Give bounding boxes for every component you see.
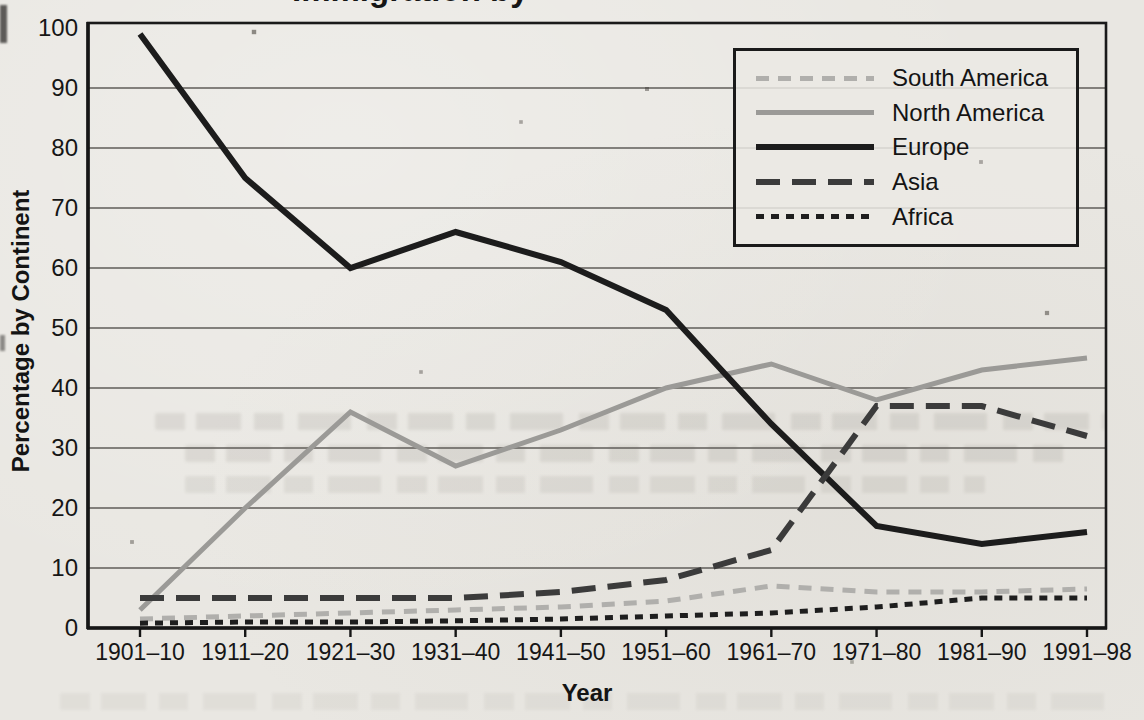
legend-label-asia: Asia (892, 168, 939, 196)
y-tick-label-100: 100 (18, 15, 78, 41)
x-tick-label-1951–60: 1951–60 (610, 640, 722, 664)
y-tick-label-10: 10 (18, 555, 78, 581)
chart-legend: South AmericaNorth AmericaEuropeAsiaAfri… (733, 48, 1079, 247)
y-tick-label-70: 70 (18, 195, 78, 221)
y-tick-label-90: 90 (18, 75, 78, 101)
x-tick-label-1921–30: 1921–30 (294, 640, 406, 664)
legend-swatch-asia (756, 179, 874, 185)
series-line-south-america (140, 586, 1087, 619)
legend-item-asia: Asia (756, 168, 1076, 196)
legend-item-europe: Europe (756, 133, 1076, 161)
y-tick-label-20: 20 (18, 495, 78, 521)
legend-swatch-europe (756, 144, 874, 150)
legend-label-south-america: South America (892, 64, 1048, 92)
legend-item-south-america: South America (756, 64, 1076, 92)
legend-swatch-south-america (756, 76, 874, 81)
scan-edge-artifact (0, 5, 7, 43)
x-tick-label-1991–98: 1991–98 (1031, 640, 1143, 664)
x-tick-label-1941–50: 1941–50 (505, 640, 617, 664)
y-tick-label-40: 40 (18, 375, 78, 401)
legend-item-north-america: North America (756, 99, 1076, 127)
legend-swatch-africa (756, 214, 874, 219)
y-tick-label-50: 50 (18, 315, 78, 341)
y-tick-label-60: 60 (18, 255, 78, 281)
x-tick-label-1931–40: 1931–40 (400, 640, 512, 664)
y-tick-label-30: 30 (18, 435, 78, 461)
y-tick-label-0: 0 (18, 615, 78, 641)
scan-edge-artifact (0, 335, 5, 351)
scan-specks (0, 0, 2, 2)
legend-label-north-america: North America (892, 99, 1044, 127)
x-axis-title: Year (532, 679, 642, 707)
legend-swatch-north-america (756, 110, 874, 115)
x-tick-label-1981–90: 1981–90 (926, 640, 1038, 664)
x-tick-label-1971–80: 1971–80 (821, 640, 933, 664)
series-line-asia (140, 406, 1087, 598)
y-tick-label-80: 80 (18, 135, 78, 161)
legend-label-europe: Europe (892, 133, 969, 161)
legend-item-africa: Africa (756, 203, 1076, 231)
x-tick-label-1961–70: 1961–70 (715, 640, 827, 664)
legend-label-africa: Africa (892, 203, 953, 231)
x-tick-label-1911–20: 1911–20 (189, 640, 301, 664)
x-tick-label-1901–10: 1901–10 (84, 640, 196, 664)
series-line-north-america (140, 358, 1087, 610)
